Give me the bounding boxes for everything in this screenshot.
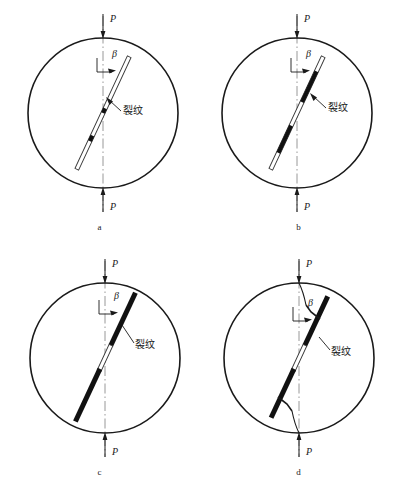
crack-curve-upper bbox=[299, 283, 306, 305]
panel-caption-b: b bbox=[199, 222, 398, 232]
load-arrow-top bbox=[103, 259, 108, 284]
crack-label: 裂纹 bbox=[135, 338, 155, 350]
load-arrow-bottom bbox=[101, 187, 106, 212]
disc-diagram-d: P P β 裂纹 bbox=[199, 245, 398, 489]
load-label-top: P bbox=[305, 258, 312, 269]
crack-leader-line bbox=[310, 93, 326, 108]
disc-diagram-b: P P β 裂纹 bbox=[199, 0, 398, 244]
panel-b: P P β 裂纹 b bbox=[199, 0, 398, 244]
load-label-bottom: P bbox=[305, 446, 312, 457]
crack-segment-lower bbox=[73, 368, 102, 423]
angle-annotation bbox=[97, 58, 116, 74]
angle-label: β bbox=[305, 48, 311, 59]
angle-label: β bbox=[307, 297, 313, 308]
disc-diagram-a: P P β 裂纹 bbox=[0, 0, 199, 244]
crack-label: 裂纹 bbox=[331, 345, 351, 357]
load-arrow-top bbox=[295, 14, 300, 39]
load-label-bottom: P bbox=[303, 201, 310, 212]
panel-c: P P β 裂纹 c bbox=[0, 245, 199, 489]
load-arrow-bottom bbox=[297, 432, 302, 457]
crack-segment-lower bbox=[277, 125, 293, 154]
angle-annotation bbox=[99, 300, 118, 316]
load-label-top: P bbox=[109, 13, 116, 24]
angle-label: β bbox=[113, 290, 119, 301]
panel-caption-a: a bbox=[0, 222, 199, 232]
panel-a: P P β 裂纹 a bbox=[0, 0, 199, 244]
angle-annotation bbox=[291, 58, 310, 74]
crack-curve-lower bbox=[292, 411, 299, 433]
panel-caption-d: d bbox=[199, 467, 398, 477]
load-label-bottom: P bbox=[109, 201, 116, 212]
panel-d: P P β 裂纹 d bbox=[199, 245, 398, 489]
crack-label: 裂纹 bbox=[328, 101, 348, 113]
angle-label: β bbox=[111, 48, 117, 59]
load-arrow-top bbox=[101, 14, 106, 39]
load-label-top: P bbox=[111, 258, 118, 269]
panel-caption-c: c bbox=[0, 467, 199, 477]
disc-diagram-c: P P β 裂纹 bbox=[0, 245, 199, 489]
load-label-top: P bbox=[303, 13, 310, 24]
crack-label: 裂纹 bbox=[123, 104, 143, 116]
load-arrow-bottom bbox=[103, 432, 108, 457]
crack-segment-upper bbox=[109, 292, 138, 347]
crack-leader-line bbox=[319, 337, 330, 350]
crack-leader-line bbox=[122, 325, 134, 343]
load-label-bottom: P bbox=[111, 446, 118, 457]
load-arrow-top bbox=[297, 259, 302, 284]
load-arrow-bottom bbox=[295, 187, 300, 212]
